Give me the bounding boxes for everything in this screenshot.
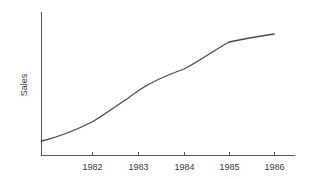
x-tick-label-1983: 1983 [128, 162, 148, 172]
y-axis-title: Sales [19, 73, 29, 96]
sales-series-line [42, 34, 274, 141]
x-tick-label-1986: 1986 [264, 162, 284, 172]
x-tick-label-1982: 1982 [82, 162, 102, 172]
chart-canvas: 1982 1983 1984 1985 1986 Sales [0, 0, 314, 179]
sales-line-chart: 1982 1983 1984 1985 1986 Sales [0, 0, 314, 179]
x-tick-label-1985: 1985 [219, 162, 239, 172]
x-tick-label-1984: 1984 [174, 162, 194, 172]
